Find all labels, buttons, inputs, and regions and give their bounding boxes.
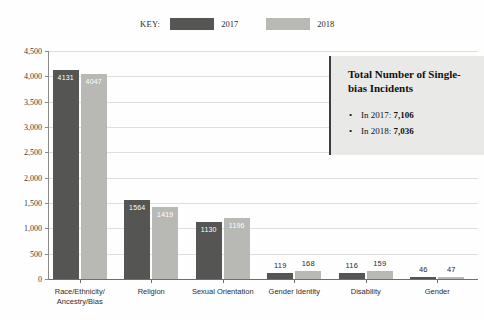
- y-axis-tick-label: 4,500: [24, 47, 42, 56]
- bar: [410, 277, 436, 279]
- bar: [339, 273, 365, 279]
- y-axis-tick-mark: [45, 152, 49, 153]
- bar-value-label: 119: [267, 261, 293, 270]
- bar-chart: KEY: 2017 2018 05001,0001,5002,0002,5003…: [0, 0, 484, 320]
- legend-swatch-2017-icon: [170, 18, 214, 30]
- x-axis-tick-mark: [366, 279, 367, 283]
- y-axis-tick-mark: [45, 279, 49, 280]
- x-axis-category-label: Gender Identity: [259, 287, 331, 297]
- y-axis-tick-label: 3,000: [24, 123, 42, 132]
- callout-list-item: In 2017: 7,106: [348, 107, 478, 123]
- x-axis-category-label: Sexual Orientation: [187, 287, 259, 297]
- bar-value-label: 4131: [53, 74, 79, 81]
- bar: [267, 273, 293, 279]
- y-axis-tick-mark: [45, 76, 49, 77]
- y-axis-tick-mark: [45, 51, 49, 52]
- legend-item-2018: 2018: [266, 18, 334, 30]
- bar: 1130: [196, 222, 222, 279]
- bar: [295, 271, 321, 280]
- x-axis-category-label: Gender: [402, 287, 474, 297]
- x-axis-category-label: Disability: [330, 287, 402, 297]
- bar-value-label: 1564: [124, 204, 150, 211]
- bar-value-label: 46: [410, 265, 436, 274]
- x-axis-tick-mark: [294, 279, 295, 283]
- bar: [367, 271, 393, 279]
- callout-item-value: 7,036: [394, 126, 414, 136]
- callout-item-value: 7,106: [394, 110, 414, 120]
- x-axis-category-label: Race/Ethnicity/ Ancestry/Bias: [44, 287, 116, 306]
- gridline: [49, 178, 478, 179]
- callout-title: Total Number of Single-bias Incidents: [348, 68, 476, 95]
- callout-box: Total Number of Single-bias Incidents In…: [329, 56, 484, 155]
- y-axis-tick-mark: [45, 178, 49, 179]
- x-axis-category-label: Religion: [116, 287, 188, 297]
- y-axis-tick-label: 500: [30, 249, 42, 258]
- legend-item-2017: 2017: [170, 18, 238, 30]
- y-axis-tick-label: 2,500: [24, 148, 42, 157]
- x-axis-tick-mark: [223, 279, 224, 283]
- gridline: [49, 203, 478, 204]
- y-axis-tick-label: 0: [38, 275, 42, 284]
- y-axis-line: [48, 51, 49, 279]
- callout-list: In 2017: 7,106In 2018: 7,036: [348, 107, 478, 139]
- x-axis-tick-mark: [437, 279, 438, 283]
- y-axis-tick-mark: [45, 127, 49, 128]
- callout-item-prefix: In 2017:: [361, 110, 394, 120]
- y-axis-tick-label: 1,500: [24, 199, 42, 208]
- y-axis-tick-label: 3,500: [24, 97, 42, 106]
- x-axis-tick-mark: [151, 279, 152, 283]
- y-axis-tick-label: 4,000: [24, 72, 42, 81]
- y-axis-tick-label: 2,000: [24, 173, 42, 182]
- legend-swatch-2018-icon: [266, 18, 310, 30]
- x-axis-line: [48, 279, 478, 280]
- legend-label-2017: 2017: [221, 19, 238, 29]
- callout-left-rule: [329, 56, 331, 155]
- bar: 4131: [53, 70, 79, 279]
- callout-list-item: In 2018: 7,036: [348, 123, 478, 139]
- callout-item-prefix: In 2018:: [361, 126, 394, 136]
- bar-value-label: 168: [295, 259, 321, 268]
- y-axis-tick-mark: [45, 228, 49, 229]
- bar: 4047: [81, 74, 107, 279]
- y-axis-tick-mark: [45, 102, 49, 103]
- gridline: [49, 51, 478, 52]
- bar: [438, 277, 464, 279]
- gridline: [49, 228, 478, 229]
- legend-key-label: KEY:: [140, 19, 160, 29]
- bar-value-label: 1130: [196, 226, 222, 233]
- y-axis-tick-mark: [45, 254, 49, 255]
- y-axis-tick-label: 1,000: [24, 224, 42, 233]
- y-axis-tick-mark: [45, 203, 49, 204]
- bar-value-label: 47: [438, 265, 464, 274]
- legend-label-2018: 2018: [317, 19, 334, 29]
- x-axis-tick-mark: [80, 279, 81, 283]
- bar-value-label: 1196: [224, 222, 250, 229]
- gridline: [49, 254, 478, 255]
- chart-legend: KEY: 2017 2018: [140, 17, 334, 31]
- bar-value-label: 159: [367, 259, 393, 268]
- bar-value-label: 1419: [152, 211, 178, 218]
- bar: 1564: [124, 200, 150, 279]
- bar-value-label: 116: [339, 261, 365, 270]
- bar-value-label: 4047: [81, 78, 107, 85]
- bar: 1196: [224, 218, 250, 279]
- bar: 1419: [152, 207, 178, 279]
